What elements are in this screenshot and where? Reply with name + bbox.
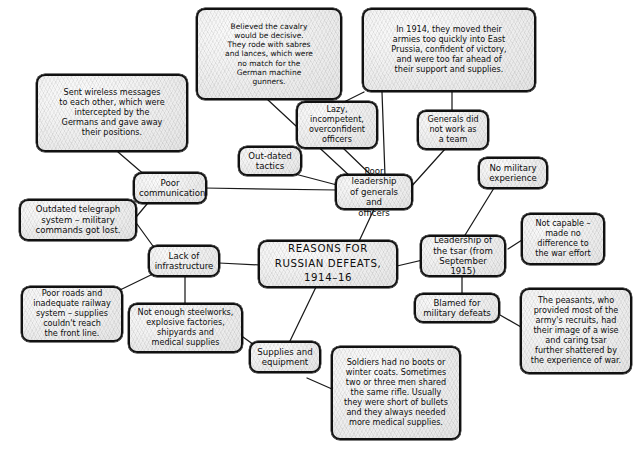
node-lazy-officers[interactable]: Lazy, incompetent, overconfident officer… — [296, 101, 378, 149]
node-soldiers-shortages-label: Soldiers had no boots or winter coats. S… — [337, 358, 455, 427]
node-east-prussia[interactable]: In 1914, they moved their armies too qui… — [362, 8, 536, 92]
edge-tactics-poor-leadership — [295, 174, 337, 185]
node-supplies-equipment[interactable]: Supplies and equipment — [249, 341, 321, 373]
edge-central-supplies — [290, 287, 316, 341]
node-lazy-officers-label: Lazy, incompetent, overconfident officer… — [302, 105, 372, 144]
node-poor-roads-label: Poor roads and inadequate railway system… — [27, 289, 117, 338]
node-cavalry-label: Believed the cavalry would be decisive. … — [202, 22, 336, 86]
node-east-prussia-label: In 1914, they moved their armies too qui… — [368, 25, 530, 74]
node-poor-communication[interactable]: Poor communication — [133, 172, 207, 204]
node-poor-communication-label: Poor communication — [139, 178, 201, 199]
node-poor-roads[interactable]: Poor roads and inadequate railway system… — [21, 286, 123, 342]
node-supplies-equipment-label: Supplies and equipment — [255, 347, 315, 368]
node-not-enough-industry-label: Not enough steelworks, explosive factori… — [134, 308, 237, 347]
edge-central-lack-infra — [219, 263, 260, 265]
node-soldiers-shortages[interactable]: Soldiers had no boots or winter coats. S… — [331, 346, 461, 440]
node-outdated-tactics-label: Out-dated tactics — [244, 151, 296, 172]
node-lack-of-infrastructure-label: Lack of infrastructure — [154, 251, 214, 272]
node-wireless-messages-label: Sent wireless messages to each other, wh… — [42, 88, 182, 137]
node-not-capable-label: Not capable – made no difference to the … — [527, 219, 599, 258]
node-central-topic-label: REASONS FOR RUSSIAN DEFEATS, 1914–16 — [264, 242, 392, 286]
edge-tsar-not-capable — [508, 240, 522, 249]
edge-poor-comms-poor-leadership — [204, 188, 337, 190]
node-peasants-image-of-tsar[interactable]: The peasants, who provided most of the a… — [520, 288, 632, 374]
edge-generals-poor-leadership — [410, 149, 445, 188]
node-generals-not-team-label: Generals did not work as a team — [423, 115, 483, 145]
node-not-capable[interactable]: Not capable – made no difference to the … — [521, 213, 605, 265]
node-no-military-experience-label: No military experience — [484, 163, 542, 184]
node-no-military-experience[interactable]: No military experience — [478, 157, 548, 189]
edge-east-prussia-poor-leadership — [382, 92, 385, 176]
node-wireless-messages[interactable]: Sent wireless messages to each other, wh… — [36, 74, 188, 152]
node-tsar-leadership-label: Leadership of the tsar (from September 1… — [426, 235, 500, 277]
node-outdated-tactics[interactable]: Out-dated tactics — [238, 146, 302, 176]
node-peasants-image-of-tsar-label: The peasants, who provided most of the a… — [526, 296, 626, 365]
mindmap-canvas: Believed the cavalry would be decisive. … — [0, 0, 637, 451]
node-cavalry[interactable]: Believed the cavalry would be decisive. … — [196, 8, 342, 100]
node-outdated-telegraph[interactable]: Outdated telegraph system – military com… — [19, 199, 137, 241]
edge-no-military-exp-tsar — [462, 188, 494, 240]
node-lack-of-infrastructure[interactable]: Lack of infrastructure — [148, 245, 220, 277]
node-poor-leadership-label: Poor leadership of generals and officers — [341, 166, 407, 218]
node-tsar-leadership[interactable]: Leadership of the tsar (from September 1… — [420, 235, 506, 277]
node-poor-leadership[interactable]: Poor leadership of generals and officers — [335, 174, 413, 210]
node-outdated-telegraph-label: Outdated telegraph system – military com… — [25, 204, 131, 235]
edge-supplies-soldiers — [307, 378, 332, 389]
node-not-enough-industry[interactable]: Not enough steelworks, explosive factori… — [128, 303, 243, 353]
node-generals-not-team[interactable]: Generals did not work as a team — [417, 110, 489, 150]
node-blamed-for-defeats[interactable]: Blamed for military defeats — [414, 293, 500, 323]
edge-blamed-peasants — [500, 315, 521, 327]
node-central-topic[interactable]: REASONS FOR RUSSIAN DEFEATS, 1914–16 — [258, 240, 398, 288]
node-blamed-for-defeats-label: Blamed for military defeats — [420, 298, 494, 319]
